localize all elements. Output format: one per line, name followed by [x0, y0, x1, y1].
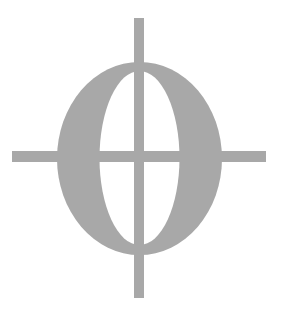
- horizontal-crosshair-bar: [12, 151, 266, 162]
- crosshair-o-logo: [0, 0, 282, 316]
- crosshair-o-icon: [0, 0, 282, 316]
